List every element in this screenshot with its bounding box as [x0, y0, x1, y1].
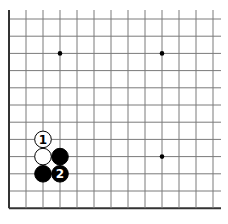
star-point-icon	[160, 154, 165, 159]
black-stone	[52, 148, 69, 165]
stones: 12	[35, 131, 69, 182]
move-number: 1	[39, 133, 47, 147]
white-stone	[35, 148, 52, 165]
black-stone: 2	[52, 166, 69, 183]
star-point-icon	[160, 51, 165, 56]
white-stone-icon	[35, 148, 52, 165]
move-number: 2	[56, 167, 64, 181]
star-point-icon	[58, 51, 63, 56]
black-stone	[35, 166, 52, 183]
white-stone: 1	[35, 131, 52, 148]
go-board: 12	[0, 0, 228, 224]
black-stone-icon	[35, 166, 52, 183]
black-stone-icon	[52, 148, 69, 165]
